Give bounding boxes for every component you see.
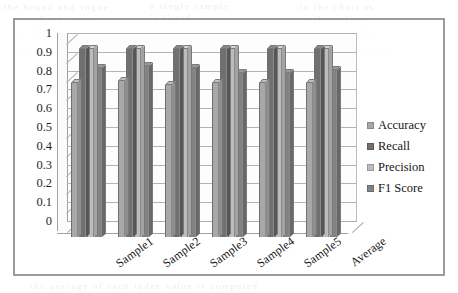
x-axis-tick: Sample5 — [301, 234, 344, 271]
y-axis-tick: 0.5 — [36, 121, 52, 134]
bar-side-face — [180, 45, 184, 237]
chart-legend: AccuracyRecallPrecisionF1 Score — [367, 115, 445, 199]
scan-bleed-line: a single sample — [150, 1, 230, 11]
legend-label: F1 Score — [378, 182, 423, 195]
scan-bleed-line: in the chart as — [300, 2, 374, 12]
bar-side-face — [86, 45, 90, 237]
bar-side-face — [141, 45, 145, 237]
bar — [71, 83, 78, 237]
bar-side-face — [337, 66, 341, 237]
bar-side-face — [172, 81, 176, 237]
bar-group — [118, 49, 150, 237]
legend-swatch-icon — [367, 185, 374, 192]
bar-group — [71, 49, 103, 237]
x-axis: Sample1Sample2Sample3Sample4Sample5Avera… — [57, 234, 367, 280]
bar-front-face — [71, 83, 78, 237]
bar-front-face — [212, 83, 219, 237]
scan-bleed-line: the average of each index value is compu… — [30, 281, 258, 291]
bar — [259, 83, 266, 237]
bar — [306, 83, 313, 237]
x-axis-tick: Sample1 — [113, 234, 156, 271]
bar-front-face — [306, 83, 313, 237]
y-axis-tick: 1 — [46, 27, 52, 40]
x-axis-tick: Sample2 — [160, 234, 203, 271]
legend-item: F1 Score — [367, 178, 445, 199]
gridline — [67, 33, 357, 34]
y-axis-tick: 0.3 — [36, 158, 52, 171]
bar-side-face — [235, 45, 239, 237]
legend-label: Recall — [378, 140, 410, 153]
y-axis-tick: 0.2 — [36, 177, 52, 190]
y-axis-tick: 0.9 — [36, 46, 52, 59]
legend-label: Accuracy — [378, 119, 426, 132]
bar-side-face — [274, 45, 278, 237]
bar-chart: 10.90.80.70.60.50.40.30.20.10 Sample1Sam… — [15, 20, 443, 274]
bar-side-face — [102, 64, 106, 237]
legend-swatch-icon — [367, 122, 374, 129]
legend-item: Precision — [367, 157, 445, 178]
bar-side-face — [149, 62, 153, 237]
legend-label: Precision — [378, 161, 425, 174]
bar-side-face — [188, 45, 192, 237]
y-axis-tick: 0.1 — [36, 196, 52, 209]
bar-side-face — [133, 45, 137, 237]
legend-item: Accuracy — [367, 115, 445, 136]
bar-side-face — [125, 77, 129, 237]
x-axis-tick: Average — [348, 234, 390, 270]
bar-side-face — [313, 79, 317, 237]
legend-item: Recall — [367, 136, 445, 157]
bar-group — [165, 49, 197, 237]
bar-side-face — [243, 70, 247, 237]
bar-side-face — [196, 64, 200, 237]
figure-frame: 10.90.80.70.60.50.40.30.20.10 Sample1Sam… — [13, 18, 445, 276]
bar-front-face — [259, 83, 266, 237]
y-axis-tick: 0 — [46, 215, 52, 228]
bar — [212, 83, 219, 237]
bar-side-face — [290, 70, 294, 237]
bar — [118, 81, 125, 237]
bar-side-face — [321, 45, 325, 237]
bar — [165, 85, 172, 237]
bar-group — [259, 49, 291, 237]
bar-side-face — [329, 45, 333, 237]
plot-area — [57, 33, 357, 237]
bar-side-face — [282, 45, 286, 237]
scan-bleed-line: the bound and vague — [4, 2, 109, 12]
bar-front-face — [165, 85, 172, 237]
y-axis-tick: 0.8 — [36, 64, 52, 77]
y-axis-tick: 0.6 — [36, 102, 52, 115]
bar-side-face — [266, 79, 270, 237]
bar-side-face — [219, 79, 223, 237]
y-axis-tick: 0.7 — [36, 83, 52, 96]
bar-front-face — [118, 81, 125, 237]
x-axis-tick: Sample4 — [254, 234, 297, 271]
y-axis: 10.90.80.70.60.50.40.30.20.10 — [15, 33, 55, 237]
x-axis-tick: Sample3 — [207, 234, 250, 271]
legend-swatch-icon — [367, 143, 374, 150]
bar-side-face — [94, 45, 98, 237]
bar-side-face — [78, 79, 82, 237]
bar-side-face — [227, 45, 231, 237]
bar-group — [212, 49, 244, 237]
legend-swatch-icon — [367, 164, 374, 171]
bar-group — [306, 49, 338, 237]
y-axis-tick: 0.4 — [36, 140, 52, 153]
